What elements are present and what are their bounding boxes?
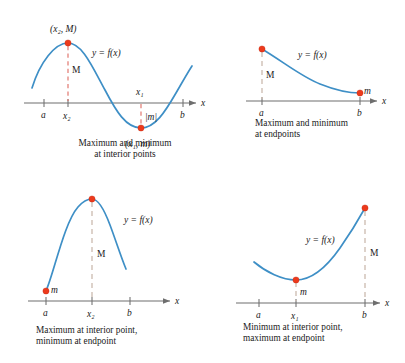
- caption-interior-points: Maximum and minimum at interior points: [55, 138, 195, 161]
- maximum-point-marker: [65, 40, 71, 46]
- x-axis-arrowhead: [189, 100, 196, 105]
- x-axis-label: x: [200, 98, 206, 108]
- min-label: m: [300, 287, 307, 297]
- a-tick-label: a: [41, 110, 46, 120]
- max-height-label: M: [266, 70, 275, 80]
- x-axis-label: x: [381, 96, 387, 106]
- minimum-point-marker: [138, 125, 144, 131]
- b-tick-label: b: [127, 308, 132, 318]
- figure-container: x (x₂, M) (x₁, m) M |m| x₁ a x₂ b y = f(…: [0, 0, 405, 363]
- panel-max-interior-min-endpoint: x M m a x₂ b y = f(x): [18, 185, 198, 320]
- a-tick-label: a: [259, 108, 264, 118]
- b-tick-label: b: [180, 110, 185, 120]
- minimum-point-marker: [43, 288, 49, 294]
- caption-min-interior-max-endpoint: Minimum at interior point, maximum at en…: [243, 322, 405, 345]
- panel-interior-points: x (x₂, M) (x₁, m) M |m| x₁ a x₂ b y = f(…: [0, 0, 215, 150]
- b-tick-label: b: [362, 310, 367, 320]
- x-axis-arrowhead: [370, 98, 377, 103]
- x-axis-label: x: [384, 298, 390, 308]
- minimum-point-marker: [357, 90, 363, 96]
- panel-min-interior-max-endpoint: x m M a x₁ b y = f(x): [228, 190, 405, 320]
- b-tick-label: b: [357, 108, 362, 118]
- maximum-point-marker: [259, 46, 265, 52]
- caption-endpoints: Maximum and minimum at endpoints: [255, 118, 405, 141]
- function-label: y = f(x): [297, 50, 327, 61]
- min-label: m: [364, 86, 371, 96]
- maximum-point-label: (x₂, M): [50, 24, 77, 35]
- min-label: m: [51, 285, 58, 295]
- a-tick-label: a: [256, 310, 261, 320]
- min-depth-label: |m|: [145, 112, 157, 122]
- x-axis-arrowhead: [163, 298, 170, 303]
- x-axis-arrowhead: [373, 300, 380, 305]
- panel-endpoints: x M m a b y = f(x): [230, 20, 405, 130]
- x1-tick-label: x₁: [290, 311, 299, 321]
- x1-tick-label-above: x₁: [135, 87, 144, 97]
- x-axis-label: x: [174, 296, 180, 306]
- maximum-point-marker: [362, 205, 368, 211]
- function-label: y = f(x): [305, 235, 335, 246]
- a-tick-label: a: [43, 308, 48, 318]
- max-height-label: M: [97, 249, 106, 259]
- function-label: y = f(x): [91, 48, 121, 59]
- max-height-label: M: [370, 248, 379, 258]
- minimum-point-marker: [293, 277, 299, 283]
- x2-tick-label: x₂: [62, 111, 71, 121]
- caption-max-interior-min-endpoint: Maximum at interior point, minimum at en…: [36, 325, 211, 348]
- maximum-point-marker: [89, 196, 95, 202]
- function-curve: [46, 199, 126, 291]
- x2-tick-label: x₂: [86, 309, 95, 319]
- max-height-label: M: [72, 65, 81, 75]
- function-label: y = f(x): [123, 215, 153, 226]
